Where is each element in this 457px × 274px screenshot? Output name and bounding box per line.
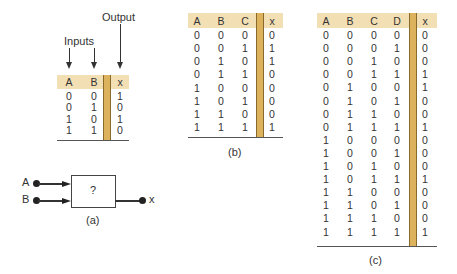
table-cell: 0 [390, 135, 404, 146]
table-cell: 0 [238, 30, 252, 41]
input-b-label: B [22, 193, 29, 205]
table-cell: 0 [418, 200, 432, 211]
table-cell: 1 [319, 187, 333, 198]
table-cell: 0 [265, 69, 279, 80]
table-cell: 1 [319, 200, 333, 211]
table-cell: 1 [367, 69, 381, 80]
header-a: A [190, 14, 204, 28]
table-cell: 1 [418, 122, 432, 133]
down-arrow-icon [117, 62, 123, 69]
table-cell: 0 [113, 125, 127, 136]
table-cell: 1 [367, 161, 381, 172]
table-cell: 1 [367, 213, 381, 224]
table-cell: 1 [390, 69, 404, 80]
table-cell: 0 [190, 56, 204, 67]
table-cell: 0 [418, 135, 432, 146]
caption-b: (b) [228, 146, 241, 158]
down-arrow-icon [91, 62, 97, 69]
table-cell: 0 [214, 43, 228, 54]
caption-c: (c) [369, 254, 382, 266]
table-cell: 0 [367, 82, 381, 93]
table-cell: 1 [367, 56, 381, 67]
header-x: x [265, 14, 279, 28]
table-cell: 1 [390, 148, 404, 159]
table-cell: 1 [238, 96, 252, 107]
table-cell: 0 [265, 83, 279, 94]
input-a-label: A [22, 176, 29, 188]
table-cell: 0 [319, 109, 333, 120]
table-cell: 0 [390, 56, 404, 67]
table-cell: 0 [343, 30, 357, 41]
header-d: D [390, 14, 404, 28]
table-cell: 1 [343, 187, 357, 198]
table-cell: 1 [62, 125, 76, 136]
table-cell: 0 [238, 109, 252, 120]
input-b-wire [38, 200, 64, 202]
table-cell: 0 [319, 43, 333, 54]
table-cell: 0 [418, 161, 432, 172]
table-cell: 0 [265, 96, 279, 107]
table-cell: 0 [319, 69, 333, 80]
table-cell: 0 [238, 56, 252, 67]
table-cell: 1 [418, 69, 432, 80]
table-cell: 1 [343, 96, 357, 107]
table-cell: 0 [319, 30, 333, 41]
table-cell: 1 [418, 174, 432, 185]
table-cell: 0 [214, 30, 228, 41]
table-cell: 0 [62, 102, 76, 113]
table-cell: 0 [418, 56, 432, 67]
table-cell: 1 [214, 109, 228, 120]
table-cell: 1 [390, 200, 404, 211]
table-cell: 1 [367, 227, 381, 238]
table-cell: 0 [418, 187, 432, 198]
table-bottom-rule [317, 246, 437, 247]
table-bottom-rule [188, 137, 283, 138]
table-bottom-rule [57, 140, 129, 141]
output-terminal-icon [139, 197, 146, 204]
table-cell: 1 [319, 148, 333, 159]
table-cell: 1 [190, 83, 204, 94]
table-cell: 0 [418, 43, 432, 54]
down-arrow-icon [66, 62, 72, 69]
right-arrow-icon [62, 198, 71, 204]
header-b: B [214, 14, 228, 28]
header-b: B [87, 75, 101, 89]
table-cell: 1 [214, 122, 228, 133]
inputs-label: Inputs [64, 35, 94, 47]
gate-question-mark: ? [90, 184, 96, 196]
table-cell: 1 [319, 161, 333, 172]
table-cell: 1 [343, 213, 357, 224]
table-cell: 0 [343, 43, 357, 54]
table-cell: 1 [190, 109, 204, 120]
table-cell: 0 [265, 30, 279, 41]
table-cell: 1 [319, 227, 333, 238]
table-cell: 0 [367, 200, 381, 211]
header-x: x [418, 14, 432, 28]
table-cell: 1 [319, 213, 333, 224]
output-x-label: x [149, 193, 155, 205]
column-divider [103, 75, 111, 140]
table-cell: 0 [367, 30, 381, 41]
table-cell: 0 [113, 102, 127, 113]
output-label: Output [102, 11, 135, 23]
table-cell: 0 [418, 148, 432, 159]
table-cell: 1 [319, 174, 333, 185]
table-cell: 0 [367, 148, 381, 159]
header-c: C [367, 14, 381, 28]
table-cell: 0 [367, 187, 381, 198]
table-cell: 1 [343, 200, 357, 211]
table-cell: 0 [367, 135, 381, 146]
table-cell: 0 [390, 30, 404, 41]
header-b: B [343, 14, 357, 28]
table-cell: 1 [367, 109, 381, 120]
column-divider [409, 13, 417, 246]
input-a-arrow-line [69, 48, 70, 63]
table-cell: 1 [343, 122, 357, 133]
table-cell: 0 [343, 56, 357, 67]
caption-a: (a) [86, 214, 99, 226]
table-cell: 1 [367, 122, 381, 133]
table-cell: 1 [190, 122, 204, 133]
table-cell: 1 [214, 69, 228, 80]
input-a-wire [38, 183, 64, 185]
table-cell: 0 [390, 109, 404, 120]
